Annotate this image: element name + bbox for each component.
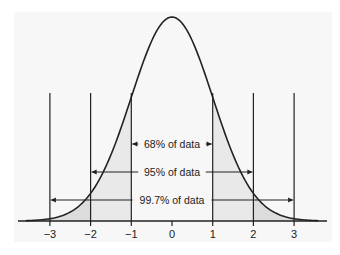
- x-tick-label: −1: [125, 228, 138, 240]
- x-tick-label: 2: [250, 228, 256, 240]
- range-annotation: 68% of data: [132, 138, 211, 150]
- x-tick-label: −3: [44, 228, 57, 240]
- x-tick-label: 1: [210, 228, 216, 240]
- x-tick-label: 0: [169, 228, 175, 240]
- x-tick-label: 3: [291, 228, 297, 240]
- normal-distribution-chart: −3−2−10123 68% of data95% of data99.7% o…: [0, 0, 340, 255]
- range-label: 95% of data: [144, 166, 200, 178]
- range-label: 99.7% of data: [140, 194, 205, 206]
- chart-background: [14, 12, 332, 242]
- x-tick-label: −2: [84, 228, 97, 240]
- range-label: 68% of data: [144, 138, 200, 150]
